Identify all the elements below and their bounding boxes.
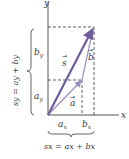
- sx-equation: sx = ax + bx: [44, 142, 96, 151]
- ax-label: ax: [58, 119, 67, 130]
- ay-label: ay: [34, 91, 43, 103]
- bx-label: bx: [82, 119, 92, 130]
- vector-addition-diagram: y x s → b → a → by ay sy = ay + by ax bx…: [0, 0, 129, 159]
- vector-a: [48, 81, 81, 115]
- arrow-over-a-icon: →: [70, 93, 75, 100]
- x-brace: [48, 131, 94, 137]
- vector-s-label: s: [62, 58, 67, 68]
- x-axis-label: x: [121, 110, 126, 120]
- sy-equation: sy = ay + by: [11, 54, 20, 106]
- arrow-over-b-icon: →: [88, 46, 93, 53]
- vector-b-label: b: [88, 52, 94, 62]
- y-axis-label: y: [43, 0, 50, 8]
- y-brace: [27, 29, 34, 115]
- by-label: by: [34, 47, 44, 59]
- arrow-over-s-icon: →: [62, 52, 67, 59]
